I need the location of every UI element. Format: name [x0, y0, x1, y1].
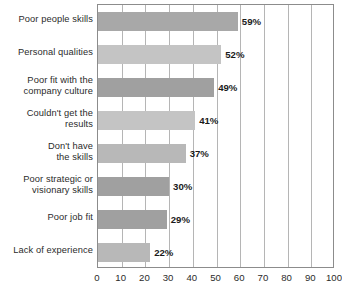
- x-tick-label: 60: [234, 272, 245, 283]
- x-tick-label: 20: [139, 272, 150, 283]
- category-label: Couldn't get theresults: [0, 108, 93, 130]
- bar-value-label: 37%: [190, 144, 209, 163]
- category-label: Don't havethe skills: [0, 141, 93, 163]
- category-label: Poor job fit: [0, 212, 93, 223]
- x-tick-label: 40: [186, 272, 197, 283]
- category-label-line: Personal qualities: [0, 47, 93, 58]
- bar: [98, 12, 238, 31]
- bar-value-label: 52%: [225, 45, 244, 64]
- category-label-line: the skills: [0, 152, 93, 163]
- category-label-line: company culture: [0, 86, 93, 97]
- bar-value-label: 30%: [173, 177, 192, 196]
- bar-value-label: 22%: [154, 243, 173, 262]
- gridline: [288, 5, 289, 267]
- x-tick-label: 70: [258, 272, 269, 283]
- x-tick-label: 30: [163, 272, 174, 283]
- category-label: Poor people skills: [0, 14, 93, 25]
- x-axis: 0102030405060708090100: [97, 268, 334, 294]
- x-tick-label: 10: [115, 272, 126, 283]
- category-label-line: visionary skills: [0, 185, 93, 196]
- category-label: Poor strategic orvisionary skills: [0, 174, 93, 196]
- bar: [98, 243, 150, 262]
- bar-value-label: 29%: [171, 210, 190, 229]
- category-label-line: Poor job fit: [0, 212, 93, 223]
- gridline: [311, 5, 312, 267]
- category-axis-labels: Poor people skillsPersonal qualitiesPoor…: [0, 4, 93, 268]
- category-label: Personal qualities: [0, 47, 93, 58]
- bar-value-label: 59%: [242, 12, 261, 31]
- x-tick-label: 100: [326, 272, 342, 283]
- category-label: Poor fit with thecompany culture: [0, 75, 93, 97]
- bar: [98, 111, 195, 130]
- x-tick-label: 50: [210, 272, 221, 283]
- bar: [98, 210, 167, 229]
- bar: [98, 78, 214, 97]
- category-label-line: Poor fit with the: [0, 75, 93, 86]
- category-label-line: Couldn't get the: [0, 108, 93, 119]
- bar: [98, 144, 186, 163]
- gridline: [264, 5, 265, 267]
- category-label-line: Poor people skills: [0, 14, 93, 25]
- plot-area: 59%52%49%41%37%30%29%22%: [97, 4, 334, 268]
- category-label-line: Poor strategic or: [0, 174, 93, 185]
- category-label: Lack of experience: [0, 245, 93, 256]
- category-label-line: Don't have: [0, 141, 93, 152]
- bar: [98, 177, 169, 196]
- bar-chart: Poor people skillsPersonal qualitiesPoor…: [0, 0, 342, 295]
- x-tick-label: 90: [305, 272, 316, 283]
- bar: [98, 45, 221, 64]
- bar-value-label: 41%: [199, 111, 218, 130]
- category-label-line: Lack of experience: [0, 245, 93, 256]
- bar-value-label: 49%: [218, 78, 237, 97]
- x-tick-label: 80: [281, 272, 292, 283]
- category-label-line: results: [0, 119, 93, 130]
- x-tick-label: 0: [94, 272, 99, 283]
